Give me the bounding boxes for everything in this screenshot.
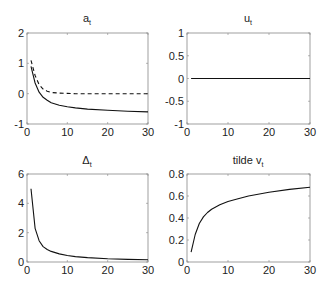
panel-title: Δt xyxy=(82,154,91,168)
x-tick-label: 10 xyxy=(61,126,73,138)
y-tick-label: 1 xyxy=(18,57,24,69)
y-tick-label: 0.8 xyxy=(169,168,184,180)
series-line-solid xyxy=(31,66,148,112)
panel-title: ut xyxy=(244,12,252,26)
series-line-solid xyxy=(31,189,148,260)
x-tick-label: 0 xyxy=(184,264,190,276)
y-tick-label: 1 xyxy=(178,27,184,39)
x-tick-label: 10 xyxy=(222,264,234,276)
y-tick-label: -1 xyxy=(14,118,24,130)
axes-frame xyxy=(187,174,310,262)
panel-title: tilde vt xyxy=(233,154,264,168)
x-tick-label: 30 xyxy=(142,264,154,276)
x-tick-label: 30 xyxy=(142,126,154,138)
x-tick-label: 20 xyxy=(263,126,275,138)
y-tick-label: -1 xyxy=(174,118,184,130)
x-tick-label: 0 xyxy=(24,126,30,138)
axes-frame xyxy=(27,174,148,262)
y-tick-label: 0.2 xyxy=(169,234,184,246)
x-tick-label: 10 xyxy=(61,264,73,276)
y-tick-label: 0.6 xyxy=(169,190,184,202)
x-tick-label: 20 xyxy=(102,264,114,276)
axes-frame xyxy=(27,33,148,124)
panel-a-t: at 0102030-1012 xyxy=(14,12,154,138)
y-tick-label: 0 xyxy=(18,256,24,268)
y-tick-label: 0.5 xyxy=(169,50,184,62)
x-tick-label: 30 xyxy=(304,126,316,138)
x-tick-label: 20 xyxy=(263,264,275,276)
y-tick-label: 0.4 xyxy=(169,212,184,224)
y-tick-label: 0 xyxy=(18,88,24,100)
series-line-solid xyxy=(191,187,310,252)
y-tick-label: 0 xyxy=(178,256,184,268)
panel-u-t: ut 0102030-1-0.500.51 xyxy=(165,12,316,138)
y-tick-label: 0 xyxy=(178,73,184,85)
y-tick-label: -0.5 xyxy=(165,95,184,107)
y-tick-label: 6 xyxy=(18,168,24,180)
x-tick-label: 30 xyxy=(304,264,316,276)
series-line-dashed xyxy=(31,60,148,93)
figure: at 0102030-1012 ut 0102030-1-0.500.51 Δt… xyxy=(0,0,330,288)
y-tick-label: 2 xyxy=(18,27,24,39)
panel-delta-t: Δt 01020300246 xyxy=(18,154,154,276)
x-tick-label: 0 xyxy=(184,126,190,138)
panel-title: at xyxy=(83,12,91,26)
panel-tilde-v-t: tilde vt 010203000.20.40.60.8 xyxy=(169,154,316,276)
x-tick-label: 20 xyxy=(102,126,114,138)
x-tick-label: 0 xyxy=(24,264,30,276)
x-tick-label: 10 xyxy=(222,126,234,138)
y-tick-label: 4 xyxy=(18,197,24,209)
y-tick-label: 2 xyxy=(18,227,24,239)
